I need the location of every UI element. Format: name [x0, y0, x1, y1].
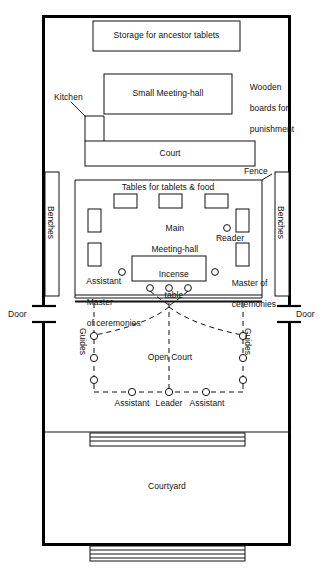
label-courtyard: Courtyard — [110, 481, 224, 492]
label-guides-left: Guides — [78, 328, 88, 355]
label-benches-left: Benches — [46, 206, 56, 239]
label-guides-right: Guides — [243, 328, 253, 355]
kitchen-leader-line — [71, 102, 86, 117]
label-incense-table: Incense table — [132, 258, 206, 311]
label-door-left: Door — [8, 309, 40, 320]
marker-assistant-left — [128, 388, 135, 395]
marker-guide-right-3 — [239, 376, 246, 383]
steps-entrance — [90, 546, 245, 561]
marker-guide-left-2 — [90, 354, 97, 361]
label-master-of-ceremonies: Master of ceremonies — [222, 267, 288, 320]
marker-reader — [224, 225, 231, 232]
incense-table-line-2: table — [164, 290, 183, 300]
label-reader: Reader — [206, 233, 254, 244]
label-kitchen: Kitchen — [54, 92, 98, 103]
label-small-meeting-hall: Small Meeting-hall — [104, 88, 232, 99]
main-meeting-hall-line-1: Main — [166, 223, 185, 233]
marker-leader — [165, 388, 172, 395]
label-benches-right: Benches — [276, 206, 286, 239]
marker-guide-left-3 — [90, 376, 97, 383]
incense-table-line-1: Incense — [159, 269, 189, 279]
label-wooden-boards: Wooden boards for punishment — [240, 71, 292, 145]
assistant-master-line-1: Assistant — [86, 276, 121, 286]
wooden-boards-line-1: Wooden — [250, 82, 282, 92]
label-main-meeting-hall: Main Meeting-hall — [122, 212, 218, 265]
label-storage: Storage for ancestor tablets — [93, 30, 240, 41]
tables-for-tablets — [114, 194, 228, 208]
marker-guide-right-2 — [239, 354, 246, 361]
master-line-1: Master of — [232, 278, 268, 288]
wooden-boards-line-3: punishment — [250, 124, 294, 134]
label-fence: Fence — [244, 166, 288, 177]
label-assistant-right: Assistant — [179, 398, 235, 409]
label-court: Court — [85, 148, 255, 159]
room-kitchen — [85, 116, 104, 141]
label-tables-for-tablets: Tables for tablets & food — [82, 182, 254, 193]
marker-master-of-ceremonies — [212, 269, 219, 276]
assistant-master-line-3: of ceremonies — [87, 318, 141, 328]
master-line-2: ceremonies — [232, 299, 276, 309]
steps-to-courtyard — [90, 433, 245, 446]
main-meeting-hall-line-2: Meeting-hall — [151, 244, 198, 254]
assistant-master-line-2: Master — [87, 297, 113, 307]
wooden-boards-line-2: boards for — [250, 103, 289, 113]
label-open-court: Open Court — [135, 352, 205, 363]
floor-plan-figure: Storage for ancestor tablets Small Meeti… — [0, 0, 335, 579]
marker-assistant-right — [202, 388, 209, 395]
label-door-right: Door — [296, 309, 330, 320]
